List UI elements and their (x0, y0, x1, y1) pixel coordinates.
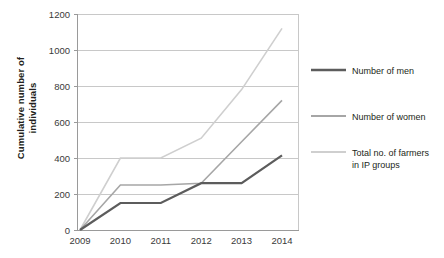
y-axis-tick-label: 600 (54, 117, 70, 128)
x-axis-tick-label: 2011 (151, 235, 171, 246)
y-axis-tick-label: 400 (54, 153, 70, 164)
legend-label-line-2: in IP groups (352, 160, 400, 170)
y-axis-tick-label: 1200 (49, 9, 70, 20)
x-axis-tick-label: 2014 (271, 235, 292, 246)
legend-label: Number of men (352, 66, 414, 76)
y-axis-tick-label: 1000 (49, 45, 70, 56)
y-axis-tick-label: 800 (54, 81, 70, 92)
cumulative-individuals-line-chart: Cumulative number of individuals 0200400… (0, 0, 444, 258)
y-axis-tick-labels: 020040060080010001200 (49, 9, 70, 236)
series-line-number-of-men (80, 155, 282, 230)
legend: Number of menNumber of womenTotal no. of… (311, 66, 430, 170)
plot-area: 020040060080010001200 200920102011201220… (0, 0, 444, 258)
legend-label: Total no. of farmers (352, 148, 430, 158)
x-axis-tick-label: 2010 (110, 235, 131, 246)
y-axis-tick-label: 200 (54, 189, 70, 200)
x-axis-tick-label: 2009 (69, 235, 90, 246)
x-axis-tick-label: 2012 (191, 235, 212, 246)
x-axis-tick-labels: 200920102011201220132014 (69, 235, 292, 246)
series-line-total-no-of-farmers-in-ip-groups (80, 28, 282, 230)
x-axis-tick-label: 2013 (231, 235, 252, 246)
y-axis-tick-label: 0 (65, 225, 70, 236)
legend-label: Number of women (352, 112, 426, 122)
data-series-group (80, 28, 282, 230)
